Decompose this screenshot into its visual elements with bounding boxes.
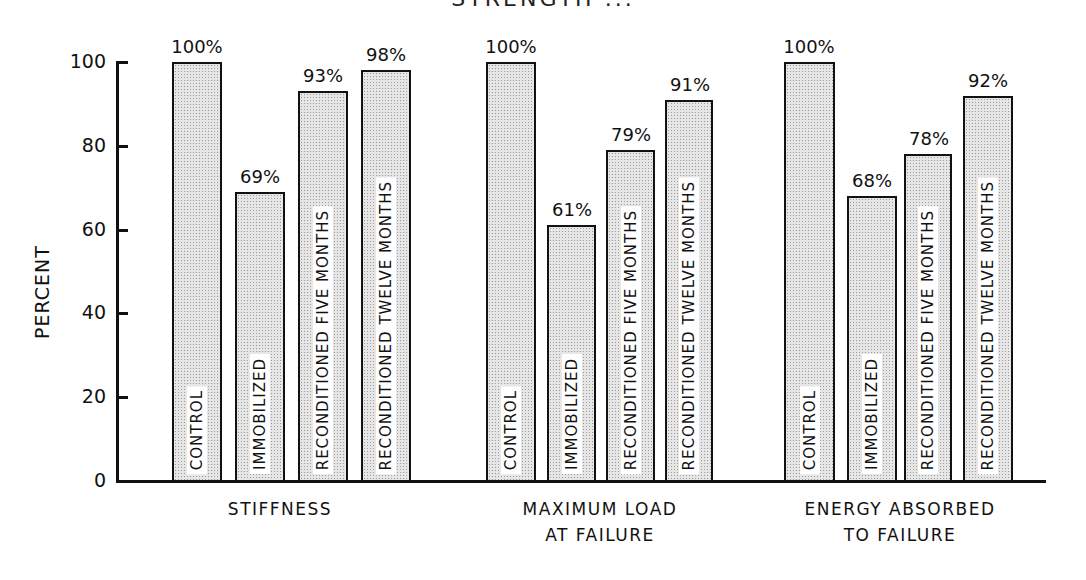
bar-series-label: IMMOBILIZED: [862, 354, 882, 474]
bar-value-label: 100%: [476, 36, 546, 57]
bar: IMMOBILIZED: [235, 192, 285, 482]
category-label: STIFFNESS: [180, 496, 380, 522]
category-label: MAXIMUM LOAD AT FAILURE: [490, 496, 710, 548]
bar-series-label: RECONDITIONED FIVE MONTHS: [621, 206, 641, 474]
bar-value-label: 98%: [351, 44, 421, 65]
bar: RECONDITIONED TWELVE MONTHS: [665, 100, 713, 482]
bar-value-label: 61%: [537, 199, 607, 220]
bar: IMMOBILIZED: [847, 196, 897, 482]
bar: CONTROL: [486, 62, 536, 482]
bar-value-label: 100%: [162, 36, 232, 57]
bar: RECONDITIONED FIVE MONTHS: [904, 154, 952, 482]
bar-series-label: RECONDITIONED TWELVE MONTHS: [978, 177, 998, 474]
bar-series-label: CONTROL: [800, 386, 820, 474]
y-tick-label: 100: [46, 50, 106, 72]
bar-series-label: RECONDITIONED TWELVE MONTHS: [376, 177, 396, 474]
bar-series-label: CONTROL: [187, 386, 207, 474]
bar: RECONDITIONED FIVE MONTHS: [298, 91, 348, 482]
y-tick-label: 40: [46, 301, 106, 323]
bar-series-label: RECONDITIONED TWELVE MONTHS: [679, 177, 699, 474]
bar-value-label: 79%: [596, 124, 666, 145]
y-tick-mark: [116, 312, 128, 315]
y-tick-mark: [116, 145, 128, 148]
bar-series-label: RECONDITIONED FIVE MONTHS: [313, 206, 333, 474]
bar-value-label: 68%: [837, 170, 907, 191]
bar-series-label: RECONDITIONED FIVE MONTHS: [918, 206, 938, 474]
bar-value-label: 100%: [774, 36, 844, 57]
bar-series-label: IMMOBILIZED: [562, 354, 582, 474]
y-tick-mark: [116, 480, 128, 483]
y-tick-label: 80: [46, 134, 106, 156]
y-tick-label: 20: [46, 385, 106, 407]
bar-value-label: 78%: [894, 128, 964, 149]
y-tick-label: 60: [46, 218, 106, 240]
category-label: ENERGY ABSORBED TO FAILURE: [770, 496, 1030, 548]
bar: RECONDITIONED FIVE MONTHS: [606, 150, 655, 482]
bar: CONTROL: [172, 62, 222, 482]
bar-series-label: IMMOBILIZED: [250, 354, 270, 474]
bar-chart: STRENGTH ... PERCENT 020406080100 CONTRO…: [0, 0, 1086, 580]
y-axis-line: [116, 62, 119, 483]
bar-value-label: 91%: [655, 74, 725, 95]
bar-series-label: CONTROL: [501, 386, 521, 474]
chart-title: STRENGTH ...: [0, 0, 1086, 11]
bar-value-label: 93%: [288, 65, 358, 86]
y-tick-mark: [116, 396, 128, 399]
y-axis-label: PERCENT: [31, 259, 53, 339]
bar: RECONDITIONED TWELVE MONTHS: [963, 96, 1013, 482]
bar: CONTROL: [784, 62, 835, 482]
bar-value-label: 92%: [953, 70, 1023, 91]
y-tick-label: 0: [46, 469, 106, 491]
bar: IMMOBILIZED: [547, 225, 596, 482]
y-tick-mark: [116, 229, 128, 232]
bar-value-label: 69%: [225, 166, 295, 187]
y-tick-mark: [116, 61, 128, 64]
bar: RECONDITIONED TWELVE MONTHS: [361, 70, 411, 482]
